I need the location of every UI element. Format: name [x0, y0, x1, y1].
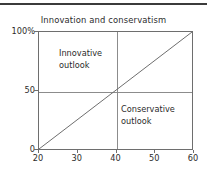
- x-axis-tick-label-60: 60: [181, 153, 205, 163]
- y-axis-tick-label-100: 100%: [0, 26, 35, 36]
- chart-title: Innovation and conservatism: [0, 15, 207, 25]
- y-axis-tick-label-50: 50: [0, 85, 35, 95]
- x-axis-tick-mark-30: [77, 150, 78, 153]
- x-axis-tick-label-40: 40: [104, 153, 128, 163]
- plot-area: Innovative outlook Conservative outlook: [38, 31, 193, 150]
- top-divider-rule: [0, 3, 207, 5]
- x-axis-tick-label-50: 50: [142, 153, 166, 163]
- x-axis-tick-mark-50: [154, 150, 155, 153]
- x-axis-tick-label-30: 30: [65, 153, 89, 163]
- x-axis-tick-mark-40: [116, 150, 117, 153]
- annotation-innovative-outlook: Innovative outlook: [59, 48, 102, 71]
- x-axis-tick-mark-60: [193, 150, 194, 153]
- annotation-conservative-outlook: Conservative outlook: [121, 104, 175, 127]
- x-axis-tick-mark-20: [38, 150, 39, 153]
- x-axis-tick-label-20: 20: [26, 153, 50, 163]
